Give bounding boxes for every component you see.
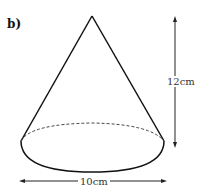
cone-diagram: [0, 0, 204, 188]
height-label: 12cm: [167, 76, 195, 87]
cone-shape: [21, 16, 164, 172]
diameter-label: 10cm: [78, 176, 110, 187]
